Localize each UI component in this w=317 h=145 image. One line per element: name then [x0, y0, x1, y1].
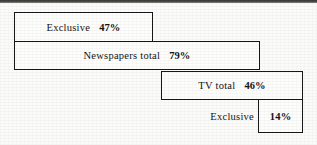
bar-label-tv-total: TV total46% [162, 80, 302, 91]
bar-value-label: 79% [169, 50, 190, 61]
bar-label-newspapers-exclusive: Exclusive47% [15, 22, 152, 33]
bar-row-tv-exclusive: 14% [258, 99, 303, 133]
scan-edge-artifact [0, 0, 317, 3]
bar-category-label-tv-exclusive: Exclusive [196, 99, 254, 133]
bar-value-label-tv-exclusive: 14% [259, 111, 302, 122]
bar-label-newspapers-total: Newspapers total79% [15, 50, 259, 61]
bar-category-label: Exclusive [47, 22, 91, 33]
bar-row-tv-total: TV total46% [161, 71, 303, 100]
bar-category-label: Newspapers total [84, 50, 161, 61]
bar-value-label: 47% [99, 22, 120, 33]
chart-screenshot: Exclusive47% Newspapers total79% TV tota… [0, 0, 317, 145]
bar-row-newspapers-exclusive: Exclusive47% [14, 12, 153, 42]
bar-row-newspapers-total: Newspapers total79% [14, 41, 260, 70]
bar-category-label: TV total [198, 80, 235, 91]
bar-value-label: 46% [244, 80, 265, 91]
